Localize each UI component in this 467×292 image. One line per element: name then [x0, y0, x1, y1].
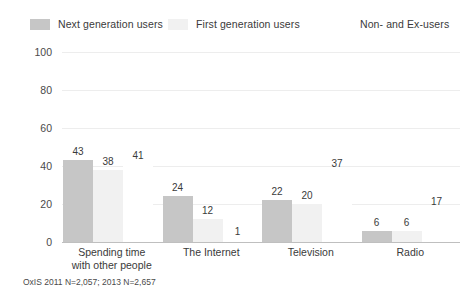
bar-fill: [362, 231, 392, 242]
y-axis-tick-label: 100: [34, 46, 52, 58]
bar-fill: [322, 172, 352, 242]
legend-label-first-generation-users: First generation users: [196, 18, 300, 30]
bar: 6: [362, 231, 392, 242]
y-axis-tick-label: 40: [40, 160, 52, 172]
legend-swatch-non-and-ex-users: [332, 19, 352, 30]
bar-chart-figure: Next generation users First generation u…: [0, 0, 467, 292]
bar-group: 222037: [261, 52, 361, 242]
x-axis-category-label: Television: [261, 246, 361, 259]
bar-fill: [223, 240, 253, 242]
bar-value-label: 12: [202, 205, 213, 216]
bar-value-label: 43: [72, 146, 83, 157]
bar-value-label: 20: [301, 190, 312, 201]
bar-fill: [63, 160, 93, 242]
bar-group: 6617: [361, 52, 461, 242]
axis-baseline: [62, 242, 460, 243]
x-axis-category-label: Radio: [361, 246, 461, 259]
bar-fill: [262, 200, 292, 242]
bar-value-label: 24: [172, 182, 183, 193]
legend-item-non-and-ex-users: Non- and Ex-users: [332, 14, 449, 34]
bar: 12: [193, 219, 223, 242]
y-axis-tick-label: 20: [40, 198, 52, 210]
y-axis-tick-label: 60: [40, 122, 52, 134]
bar-value-label: 6: [374, 217, 380, 228]
plot-area: 433841241212220376617: [62, 52, 460, 242]
legend-swatch-first-generation-users: [168, 19, 188, 30]
bar: 38: [93, 170, 123, 242]
y-axis-ticks: 020406080100: [0, 52, 62, 242]
bar: 1: [223, 240, 253, 242]
bar-fill: [292, 204, 322, 242]
y-axis-tick-label: 0: [46, 236, 52, 248]
bar-group: 24121: [162, 52, 262, 242]
bar-value-label: 38: [102, 156, 113, 167]
legend-item-next-generation-users: Next generation users: [30, 14, 163, 34]
bar-value-label: 1: [235, 226, 241, 237]
bar-fill: [392, 231, 422, 242]
bar-value-label: 37: [331, 158, 342, 169]
chart-legend: Next generation users First generation u…: [0, 14, 467, 34]
x-axis-category-label: Spending time with other people: [62, 246, 162, 271]
bar-group: 433841: [62, 52, 162, 242]
bar-value-label: 6: [404, 217, 410, 228]
legend-swatch-next-generation-users: [30, 19, 50, 30]
x-axis-category-labels: Spending time with other peopleThe Inter…: [62, 246, 460, 280]
bar-fill: [422, 210, 452, 242]
bar: 20: [292, 204, 322, 242]
bar-value-label: 41: [132, 150, 143, 161]
x-axis-category-label: The Internet: [162, 246, 262, 259]
bar-fill: [163, 196, 193, 242]
bar-fill: [93, 170, 123, 242]
bar-value-label: 17: [431, 196, 442, 207]
y-axis-tick-label: 80: [40, 84, 52, 96]
bar: 41: [123, 164, 153, 242]
bar-value-label: 22: [271, 186, 282, 197]
bar: 17: [422, 210, 452, 242]
bar-fill: [193, 219, 223, 242]
bar: 24: [163, 196, 193, 242]
legend-item-first-generation-users: First generation users: [168, 14, 300, 34]
legend-label-non-and-ex-users: Non- and Ex-users: [360, 18, 449, 30]
chart-footnote: OxIS 2011 N=2,057; 2013 N=2,657: [23, 277, 156, 287]
bar: 22: [262, 200, 292, 242]
bar-fill: [123, 164, 153, 242]
legend-label-next-generation-users: Next generation users: [58, 18, 163, 30]
bar: 6: [392, 231, 422, 242]
bar: 43: [63, 160, 93, 242]
bar: 37: [322, 172, 352, 242]
